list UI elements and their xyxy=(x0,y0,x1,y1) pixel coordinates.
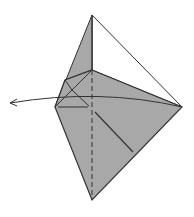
origami-diagram xyxy=(0,0,194,217)
